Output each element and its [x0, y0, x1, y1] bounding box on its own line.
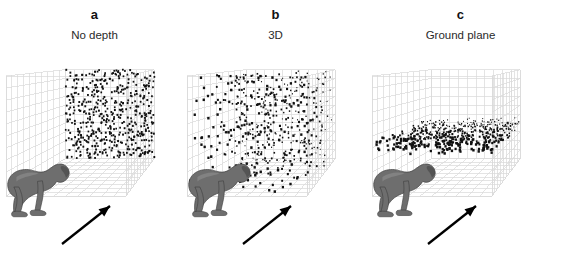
panel-c-scene [366, 48, 555, 275]
panel-c-svg [366, 48, 555, 275]
panel-c-letter: c [366, 8, 555, 21]
panel-c-caption: Ground plane [366, 30, 555, 42]
panel-b-svg [181, 48, 370, 275]
panel-b-caption: 3D [181, 30, 370, 42]
gaze-arrow-icon [428, 206, 476, 244]
panel-a: a No depth [0, 0, 189, 275]
panel-b-letter: b [181, 8, 370, 21]
panel-b-scene [181, 48, 370, 275]
gaze-arrow-icon [62, 206, 110, 244]
monkey-silhouette-icon [8, 164, 69, 217]
panel-a-scene [0, 48, 189, 275]
monkey-silhouette-icon [374, 164, 435, 217]
monkey-silhouette-icon [189, 164, 250, 217]
panel-b: b 3D [181, 0, 370, 275]
panel-a-caption: No depth [0, 30, 189, 42]
figure-root: a No depth b 3D c Ground plane [0, 0, 568, 275]
gaze-arrow-icon [243, 206, 291, 244]
panel-a-svg [0, 48, 189, 275]
panel-c: c Ground plane [366, 0, 555, 275]
panel-a-letter: a [0, 8, 189, 21]
